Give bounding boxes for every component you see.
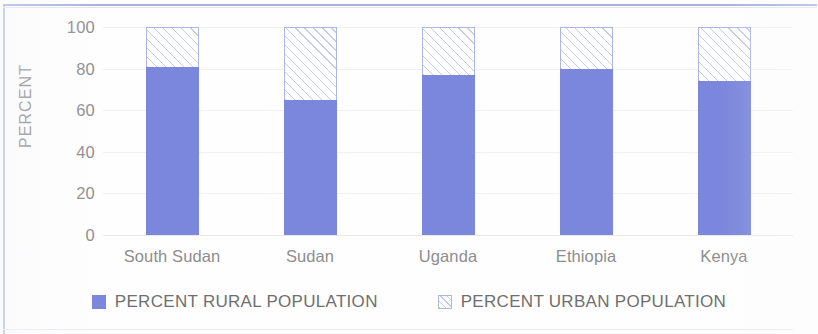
bar-segment-urban [422, 27, 475, 76]
stacked-bar [560, 27, 613, 235]
legend-item-rural[interactable]: PERCENT RURAL POPULATION [92, 292, 378, 312]
bar-group-ethiopia [560, 27, 613, 235]
hatched-square-icon [438, 295, 452, 309]
solid-square-icon [92, 295, 106, 309]
plot-area [103, 27, 793, 235]
stacked-bar [146, 27, 199, 235]
bar-segment-urban [284, 27, 337, 101]
x-axis-label-kenya: Kenya [639, 247, 809, 266]
y-axis-tick-60: 60 [76, 101, 95, 120]
y-axis-tick-20: 20 [76, 184, 95, 203]
stacked-bar [422, 27, 475, 235]
bar-group-sudan [284, 27, 337, 235]
bar-segment-rural [284, 100, 337, 235]
gridline-0 [103, 235, 793, 236]
bar-segment-rural [146, 67, 199, 235]
bar-group-south-sudan [146, 27, 199, 235]
stacked-bar [698, 27, 751, 235]
chart-legend: PERCENT RURAL POPULATIONPERCENT URBAN PO… [0, 292, 818, 312]
y-axis-tick-40: 40 [76, 142, 95, 161]
bar-segment-rural [560, 69, 613, 235]
bar-group-uganda [422, 27, 475, 235]
scanned-page: PERCENT 100806040200 South SudanSudanUga… [0, 0, 818, 334]
legend-label: PERCENT RURAL POPULATION [115, 292, 378, 312]
bar-segment-urban [698, 27, 751, 82]
y-axis-tick-labels: 100806040200 [47, 27, 95, 235]
y-axis-tick-100: 100 [67, 18, 95, 37]
bar-segment-rural [422, 75, 475, 235]
y-axis-tick-80: 80 [76, 59, 95, 78]
bar-segment-urban [146, 27, 199, 68]
bar-group-kenya [698, 27, 751, 235]
legend-label: PERCENT URBAN POPULATION [461, 292, 726, 312]
stacked-bar-chart: PERCENT 100806040200 South SudanSudanUga… [0, 0, 818, 334]
bar-segment-urban [560, 27, 613, 70]
legend-item-urban[interactable]: PERCENT URBAN POPULATION [438, 292, 726, 312]
y-axis-title: PERCENT [17, 46, 35, 166]
y-axis-tick-0: 0 [86, 226, 95, 245]
stacked-bar [284, 27, 337, 235]
bar-segment-rural [698, 81, 751, 235]
